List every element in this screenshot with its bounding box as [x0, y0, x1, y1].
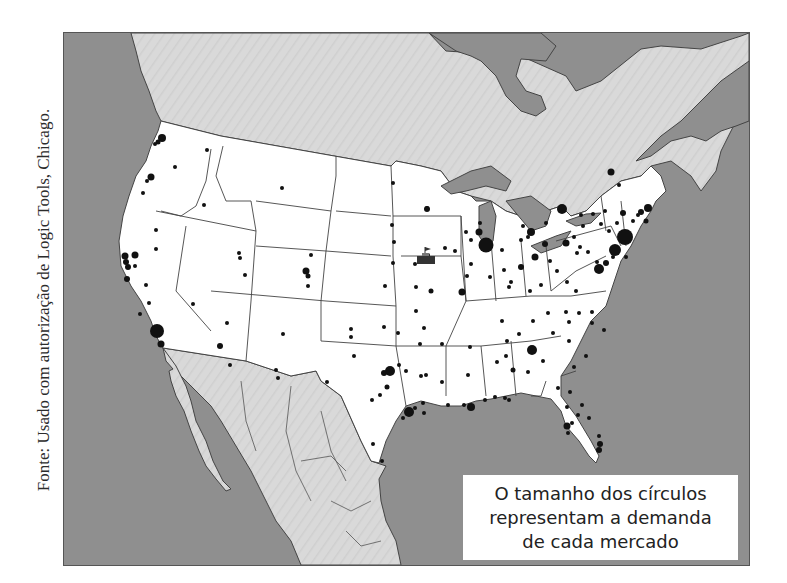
legend-line: O tamanho dos círculos [494, 482, 706, 506]
source-caption: Fonte: Usado com autorização de Logic To… [34, 109, 54, 491]
legend-line: de cada mercado [522, 530, 678, 554]
legend-box: O tamanho dos círculos representam a dem… [463, 475, 738, 560]
legend-line: representam a demanda [489, 506, 711, 530]
